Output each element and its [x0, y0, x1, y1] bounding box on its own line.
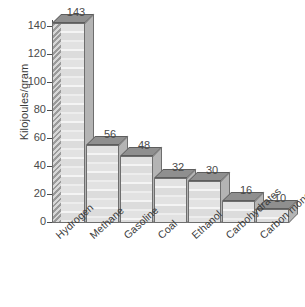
y-tick-label-40: 40 [18, 160, 46, 171]
plot-area: 143 56 48 32 30 16 10 [52, 20, 289, 223]
y-axis-tick-labels: 0 20 40 60 80 100 120 140 [14, 0, 46, 307]
y-tick-label-80: 80 [18, 104, 46, 115]
value-label-ethanol: 30 [192, 165, 232, 176]
y-tick-label-20: 20 [18, 188, 46, 199]
value-label-methane: 56 [90, 129, 130, 140]
bar-front-face [52, 23, 85, 223]
y-tick-label-140: 140 [18, 20, 46, 31]
y-tick-label-60: 60 [18, 132, 46, 143]
bar-hydrogen [52, 23, 85, 223]
value-label-gasoline: 48 [124, 140, 164, 151]
bar-chart: Kilojoules/gram 0 20 40 60 80 100 120 14… [0, 0, 305, 307]
y-tick-label-120: 120 [18, 48, 46, 59]
y-tick-label-0: 0 [18, 216, 46, 227]
y-tick-label-100: 100 [18, 76, 46, 87]
value-label-hydrogen: 143 [56, 7, 96, 18]
